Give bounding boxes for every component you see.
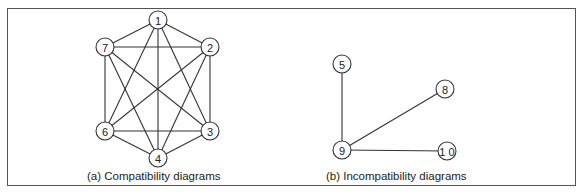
node-9: 9 — [333, 141, 351, 159]
svg-text:1 0: 1 0 — [439, 146, 454, 158]
svg-text:3: 3 — [207, 126, 213, 138]
node-1: 1 — [149, 11, 167, 29]
svg-text:7: 7 — [102, 42, 108, 54]
svg-text:8: 8 — [442, 84, 448, 96]
edge-7-4 — [105, 47, 158, 158]
edge-1-3 — [158, 20, 210, 131]
node-7: 7 — [96, 38, 114, 56]
svg-text:2: 2 — [207, 42, 213, 54]
node-10: 1 0 — [438, 142, 456, 160]
svg-text:1: 1 — [155, 15, 161, 27]
node-3: 3 — [201, 122, 219, 140]
node-8: 8 — [436, 80, 454, 98]
svg-text:9: 9 — [339, 145, 345, 157]
graph-diagram: 1234675891 0 — [0, 0, 583, 195]
edge-1-6 — [105, 20, 158, 131]
edge-9-8 — [342, 89, 445, 150]
edge-9-10 — [342, 150, 447, 151]
edge-2-4 — [158, 47, 210, 158]
caption-incompatibility: (b) Incompatibility diagrams — [326, 170, 467, 182]
node-4: 4 — [149, 149, 167, 167]
node-2: 2 — [201, 38, 219, 56]
panel-a: 123467 — [96, 11, 219, 167]
svg-text:6: 6 — [102, 126, 108, 138]
svg-text:5: 5 — [339, 59, 345, 71]
caption-compatibility: (a) Compatibility diagrams — [87, 170, 221, 182]
svg-text:4: 4 — [155, 153, 161, 165]
node-5: 5 — [333, 55, 351, 73]
panel-b: 5891 0 — [333, 55, 456, 160]
node-6: 6 — [96, 122, 114, 140]
